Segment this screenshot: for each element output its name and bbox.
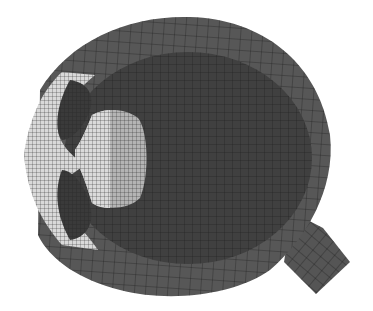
eye-fe-mesh-figure — [0, 0, 373, 311]
